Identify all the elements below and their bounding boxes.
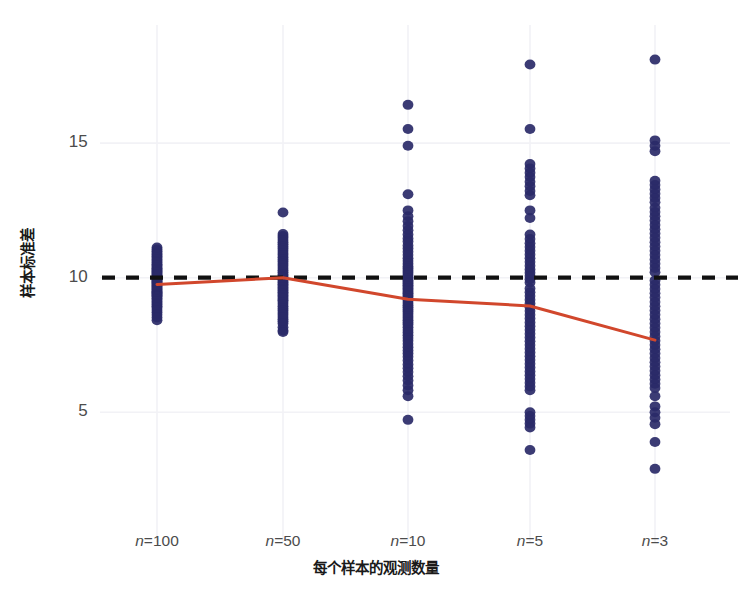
- data-point: [403, 124, 414, 134]
- data-point: [525, 124, 536, 134]
- data-point: [650, 464, 661, 474]
- data-point: [525, 422, 536, 432]
- data-point: [403, 141, 414, 151]
- plot-canvas: [0, 0, 751, 605]
- x-axis-title: 每个样本的观测数量: [0, 556, 751, 577]
- n-value: =10: [399, 532, 425, 549]
- y-tick-label-15: 15: [28, 132, 88, 152]
- data-point: [278, 208, 289, 218]
- data-point: [525, 59, 536, 69]
- data-point: [525, 445, 536, 455]
- y-tick-label-5: 5: [28, 401, 88, 421]
- data-point: [403, 391, 414, 401]
- x-tick-label-n=5: n=5: [470, 532, 590, 550]
- n-symbol: n: [391, 532, 400, 549]
- data-point: [525, 213, 536, 223]
- data-point: [152, 315, 163, 325]
- y-tick-label-10: 10: [28, 267, 88, 287]
- data-point: [650, 146, 661, 156]
- data-point: [650, 55, 661, 65]
- standard-deviation-scatter-chart: 51015 n=100n=50n=10n=5n=3 样本标准差 每个样本的观测数…: [0, 0, 751, 605]
- data-point: [525, 190, 536, 200]
- data-point: [403, 189, 414, 199]
- x-tick-label-n=100: n=100: [97, 532, 217, 550]
- data-point: [650, 437, 661, 447]
- data-point: [650, 391, 661, 401]
- y-axis-title: 样本标准差: [16, 193, 37, 333]
- data-point: [525, 385, 536, 395]
- n-value: =3: [650, 532, 668, 549]
- data-point: [650, 419, 661, 429]
- x-tick-label-n=50: n=50: [223, 532, 343, 550]
- data-points: [152, 55, 661, 474]
- point-column-n=10: [403, 100, 414, 425]
- n-value: =100: [144, 532, 179, 549]
- n-symbol: n: [266, 532, 275, 549]
- data-point: [403, 100, 414, 110]
- x-tick-label-n=10: n=10: [348, 532, 468, 550]
- data-point: [278, 327, 289, 337]
- n-value: =5: [525, 532, 543, 549]
- n-value: =50: [274, 532, 300, 549]
- data-point: [403, 415, 414, 425]
- x-tick-label-n=3: n=3: [595, 532, 715, 550]
- n-symbol: n: [135, 532, 144, 549]
